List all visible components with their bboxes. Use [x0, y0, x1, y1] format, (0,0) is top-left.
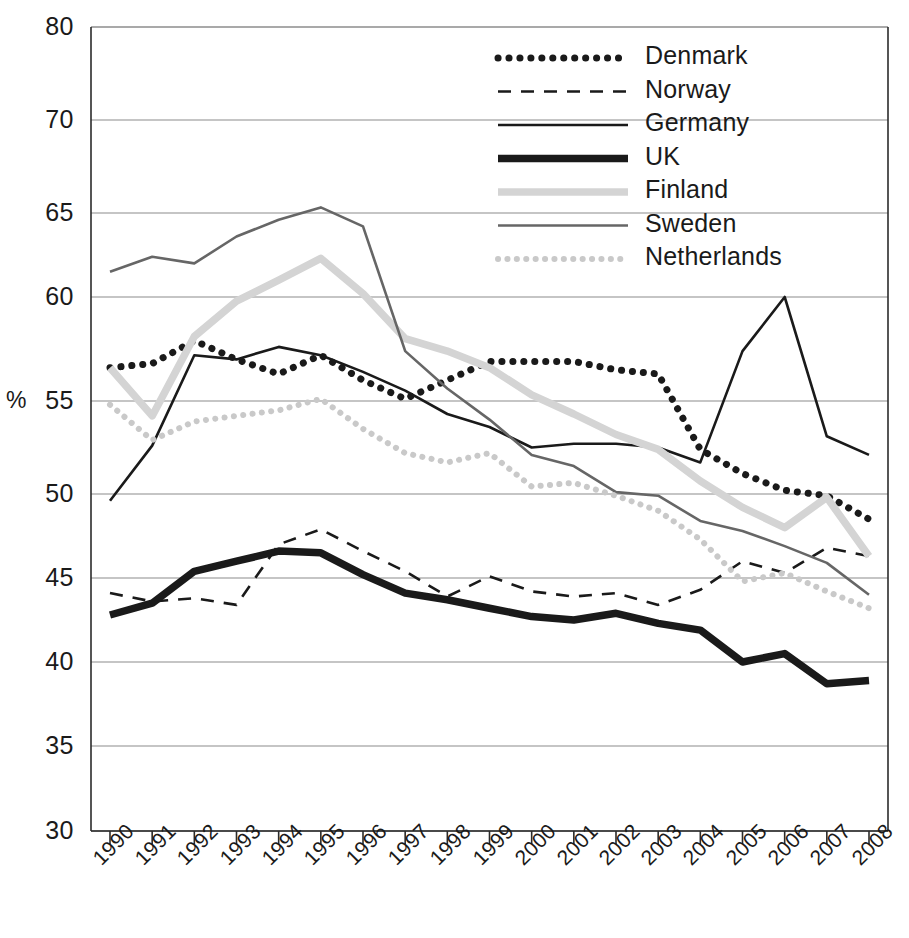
series-line-finland [110, 258, 869, 556]
chart-axes [91, 27, 888, 831]
chart-canvas [0, 0, 909, 938]
series-line-uk [110, 551, 869, 684]
y-tick-label: 40 [24, 647, 74, 676]
y-tick-label: 55 [24, 386, 74, 415]
series-line-netherlands [110, 399, 869, 608]
legend-swatches [498, 58, 628, 259]
y-axis-unit-label: % [6, 387, 26, 414]
y-tick-label: 45 [24, 563, 74, 592]
y-tick-label: 80 [24, 12, 74, 41]
legend-label-denmark: Denmark [645, 41, 748, 70]
legend-label-netherlands: Netherlands [645, 242, 782, 271]
legend-label-sweden: Sweden [645, 209, 737, 238]
legend-label-uk: UK [645, 142, 680, 171]
y-tick-label: 30 [24, 816, 74, 845]
line-chart: 80706560555045403530 1990199119921993199… [0, 0, 909, 938]
series-line-germany [110, 297, 869, 501]
gridlines [91, 27, 888, 831]
legend-label-finland: Finland [645, 175, 728, 204]
y-tick-label: 50 [24, 479, 74, 508]
y-tick-label: 65 [24, 198, 74, 227]
data-series-group [110, 207, 869, 683]
y-tick-label: 70 [24, 105, 74, 134]
y-tick-label: 35 [24, 731, 74, 760]
legend-label-norway: Norway [645, 75, 731, 104]
y-tick-label: 60 [24, 282, 74, 311]
legend-label-germany: Germany [645, 108, 749, 137]
